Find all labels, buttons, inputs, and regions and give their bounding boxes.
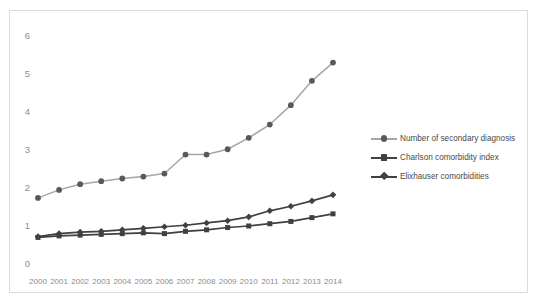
data-point-marker bbox=[225, 146, 231, 152]
data-point-marker bbox=[309, 215, 314, 220]
data-point-marker bbox=[224, 217, 231, 224]
chart-legend: Number of secondary diagnosis Charlson c… bbox=[371, 129, 531, 186]
legend-item-charlson-comorbidity-index[interactable]: Charlson comorbidity index bbox=[371, 148, 531, 167]
data-point-marker bbox=[225, 225, 230, 230]
data-point-marker bbox=[119, 176, 125, 182]
data-point-marker bbox=[288, 102, 294, 108]
data-point-marker bbox=[245, 214, 252, 221]
legend-label: Number of secondary diagnosis bbox=[400, 134, 515, 144]
data-point-marker bbox=[330, 60, 336, 66]
data-point-marker bbox=[204, 227, 209, 232]
legend-label: Elixhauser comorbidities bbox=[400, 172, 489, 182]
series-line bbox=[38, 63, 333, 198]
legend-marker-square-icon bbox=[371, 152, 397, 163]
data-point-marker bbox=[183, 229, 188, 234]
data-point-marker bbox=[330, 192, 337, 199]
data-point-marker bbox=[77, 181, 83, 187]
data-point-marker bbox=[266, 208, 273, 215]
data-point-marker bbox=[267, 221, 272, 226]
data-point-marker bbox=[246, 135, 252, 141]
data-point-marker bbox=[246, 224, 251, 229]
data-point-marker bbox=[35, 195, 41, 201]
data-point-marker bbox=[183, 152, 189, 158]
data-point-marker bbox=[182, 222, 189, 229]
data-point-marker bbox=[331, 211, 336, 216]
data-point-marker bbox=[98, 178, 104, 184]
data-point-marker bbox=[267, 122, 273, 128]
data-point-marker bbox=[288, 203, 295, 210]
data-point-marker bbox=[203, 220, 210, 227]
legend-item-number-of-secondary-diagnosis[interactable]: Number of secondary diagnosis bbox=[371, 129, 531, 148]
legend-item-elixhauser-comorbidities[interactable]: Elixhauser comorbidities bbox=[371, 167, 531, 186]
chart-series bbox=[35, 60, 336, 201]
data-point-marker bbox=[309, 198, 316, 205]
data-point-marker bbox=[161, 223, 168, 230]
legend-marker-diamond-icon bbox=[371, 171, 397, 182]
data-point-marker bbox=[140, 174, 146, 180]
data-point-marker bbox=[56, 187, 62, 193]
legend-marker-circle-icon bbox=[371, 133, 397, 144]
data-point-marker bbox=[204, 152, 210, 158]
data-point-marker bbox=[162, 231, 167, 236]
data-point-marker bbox=[309, 78, 315, 84]
legend-label: Charlson comorbidity index bbox=[400, 153, 499, 163]
data-point-marker bbox=[288, 219, 293, 224]
data-point-marker bbox=[162, 171, 168, 177]
